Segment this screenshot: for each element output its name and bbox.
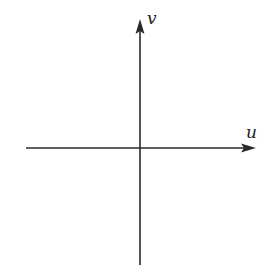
horizontal-axis-u [26, 144, 256, 153]
axis-label-u: u [246, 124, 257, 141]
vertical-axis-v [136, 19, 145, 265]
axis-label-v: v [147, 10, 157, 27]
uv-plane-diagram: v u [0, 0, 268, 266]
axes-drawing [0, 0, 268, 266]
